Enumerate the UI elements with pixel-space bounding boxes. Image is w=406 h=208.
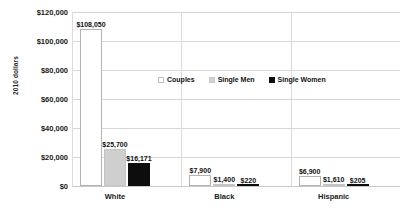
bar-value-label: $205 [350,177,366,184]
legend-label: Couples [167,76,195,83]
category-label: Black [214,192,234,201]
y-axis-tick: $100,000 [12,37,68,46]
legend-label: Single Men [218,76,255,83]
bar-couples[interactable] [299,176,321,186]
y-axis-tick: $120,000 [12,8,68,17]
legend-label: Single Women [278,76,326,83]
plot-area: $108,050$25,700$16,171$7,900$1,400$220$6… [72,12,400,186]
y-axis-tick: $20,000 [12,153,68,162]
bar-single-men[interactable] [213,184,235,186]
y-axis-tick: $60,000 [12,95,68,104]
bar-group: $108,050$25,700$16,171 [72,12,181,186]
bar-value-label: $108,050 [76,21,105,28]
legend-swatch-icon [269,77,275,83]
bar-single-women[interactable] [237,184,259,186]
bar-group: $6,900$1,610$205 [291,12,400,186]
bar-group: $7,900$1,400$220 [181,12,290,186]
bar-single-women[interactable] [128,163,150,186]
bar-value-label: $1,400 [214,176,235,183]
y-axis-tick: $40,000 [12,124,68,133]
bar-value-label: $6,900 [299,168,320,175]
bar-couples[interactable] [189,175,211,186]
bar-couples[interactable] [80,29,102,186]
category-label: White [105,192,125,201]
category-label: Hispanic [318,192,349,201]
bar-value-label: $220 [241,177,257,184]
legend-item-couples[interactable]: Couples [158,76,195,83]
bar-value-label: $25,700 [102,141,127,148]
axis-baseline [72,186,400,187]
legend-swatch-icon [209,77,215,83]
bar-single-men[interactable] [104,149,126,186]
bar-value-label: $1,610 [323,176,344,183]
y-axis-tick-labels: $120,000$100,000$80,000$60,000$40,000$20… [12,0,68,208]
y-axis-tick: $80,000 [12,66,68,75]
legend-swatch-icon [158,77,164,83]
legend-item-single-women[interactable]: Single Women [269,76,326,83]
bar-value-label: $7,900 [190,167,211,174]
bar-value-label: $16,171 [126,155,151,162]
bar-single-women[interactable] [347,184,369,186]
bar-chart: 2010 dollars $120,000$100,000$80,000$60,… [0,0,406,208]
bar-single-men[interactable] [323,184,345,186]
y-axis-tick: $0 [12,182,68,191]
chart-legend: CouplesSingle MenSingle Women [158,76,326,83]
legend-item-single-men[interactable]: Single Men [209,76,255,83]
